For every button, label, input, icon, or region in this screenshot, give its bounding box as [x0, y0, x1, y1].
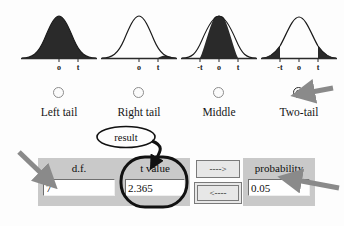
- compute-forward-button[interactable]: ---->: [196, 160, 240, 178]
- label-left-tail: Left tail: [18, 106, 100, 118]
- result-callout-label: result: [96, 126, 156, 148]
- curve-right-tail-axis-labels: o t: [98, 63, 180, 77]
- curve-right-tail-graphic: [98, 8, 180, 66]
- result-callout: result: [96, 126, 156, 148]
- radio-left-tail[interactable]: [53, 87, 64, 98]
- df-panel: d.f. 7: [38, 158, 120, 206]
- curve-left-tail-graphic: [18, 8, 100, 66]
- label-two-tail: Two-tail: [258, 106, 340, 118]
- distribution-curves-row: o t o t: [0, 8, 344, 80]
- curve-left-tail-axis-labels: o t: [18, 63, 100, 77]
- curve-two-tail-graphic: [258, 8, 340, 66]
- t-value-panel: t value 2.365: [120, 158, 190, 206]
- tail-option-labels: Left tail Right tail Middle Two-tail: [0, 106, 344, 122]
- probability-label: probability: [243, 162, 315, 174]
- label-right-tail: Right tail: [98, 106, 180, 118]
- curve-middle: -t o t: [178, 8, 260, 80]
- df-input[interactable]: 7: [43, 179, 115, 196]
- label-middle: Middle: [178, 106, 260, 118]
- probability-input[interactable]: 0.05: [248, 179, 310, 196]
- curve-middle-graphic: [178, 8, 260, 66]
- curve-middle-axis-labels: -t o t: [178, 63, 260, 77]
- radio-right-tail[interactable]: [133, 87, 144, 98]
- t-value-input[interactable]: 2.365: [125, 179, 185, 196]
- radio-middle[interactable]: [213, 87, 224, 98]
- t-value-label: t value: [120, 162, 190, 174]
- compute-backward-button-label: <----: [197, 185, 239, 201]
- compute-backward-button[interactable]: <----: [194, 182, 242, 204]
- curve-two-tail-axis-labels: -t o t: [258, 63, 340, 77]
- app-root: o t o t: [0, 0, 344, 226]
- radio-two-tail[interactable]: [293, 87, 304, 98]
- df-label: d.f.: [38, 162, 120, 174]
- curve-right-tail: o t: [98, 8, 180, 80]
- curve-two-tail: -t o t: [258, 8, 340, 80]
- probability-panel: probability 0.05: [243, 158, 315, 206]
- tail-radio-group: [0, 84, 344, 104]
- curve-left-tail: o t: [18, 8, 100, 80]
